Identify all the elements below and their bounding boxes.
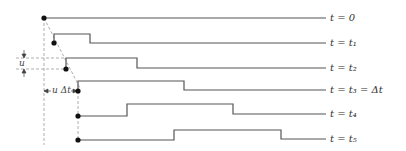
label-t5: t = t₅ (330, 134, 357, 144)
diagonal-guide (44, 18, 80, 88)
label-t1: t = t₁ (330, 38, 357, 48)
dot-t0 (41, 15, 46, 20)
wave-t3 (78, 81, 326, 91)
dot-t2 (63, 66, 68, 71)
dot-t5 (75, 137, 80, 142)
label-t3: t = t₃ = Δt (330, 85, 383, 95)
wave-t2 (66, 58, 326, 69)
wave-t1 (54, 34, 326, 43)
wave-lines (44, 18, 326, 140)
wave-t5 (78, 130, 326, 140)
label-t4: t = t₄ (330, 109, 357, 119)
dot-t3 (75, 88, 80, 93)
guide-lines (16, 18, 80, 145)
wave-t4 (78, 104, 326, 116)
dot-t1 (51, 40, 56, 45)
label-t2: t = t₂ (330, 63, 357, 73)
u-label: u (19, 59, 25, 68)
label-t0: t = 0 (330, 13, 355, 23)
u-dt-label: u Δt (52, 86, 71, 95)
dot-t4 (75, 113, 80, 118)
